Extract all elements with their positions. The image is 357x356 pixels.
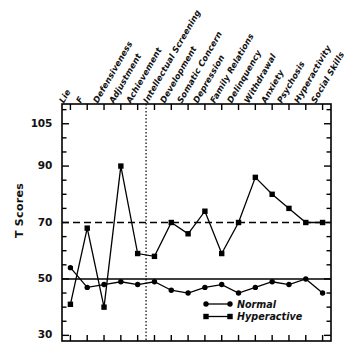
legend: NormalHyperactive	[203, 299, 302, 323]
data-point	[202, 285, 207, 290]
data-point	[236, 290, 241, 295]
chart-figure: LieFDefensivenessAdjustmentAchievementIn…	[0, 0, 357, 356]
data-point	[303, 276, 308, 281]
legend-label: Normal	[237, 299, 277, 310]
data-point	[286, 206, 291, 211]
data-point	[185, 290, 190, 295]
data-point	[135, 251, 140, 256]
data-point	[118, 163, 123, 168]
data-point	[152, 279, 157, 284]
data-point	[185, 231, 190, 236]
data-point	[85, 285, 90, 290]
data-point	[253, 175, 258, 180]
data-point	[118, 279, 123, 284]
data-point	[303, 220, 308, 225]
data-point	[169, 220, 174, 225]
legend-marker	[227, 314, 232, 319]
data-point	[286, 282, 291, 287]
data-point	[269, 279, 274, 284]
data-point	[320, 220, 325, 225]
legend-label: Hyperactive	[237, 311, 303, 322]
data-point	[101, 304, 106, 309]
data-point	[85, 225, 90, 230]
data-point	[202, 209, 207, 214]
legend-marker	[203, 301, 208, 306]
data-point	[219, 251, 224, 256]
data-point	[320, 290, 325, 295]
data-point	[219, 282, 224, 287]
data-point	[269, 192, 274, 197]
data-point	[68, 302, 73, 307]
plot-area: NormalHyperactive	[0, 0, 357, 356]
series-hyperactive	[68, 163, 326, 309]
legend-marker	[203, 314, 208, 319]
legend-marker	[227, 301, 232, 306]
data-point	[236, 220, 241, 225]
data-point	[68, 265, 73, 270]
data-point	[253, 285, 258, 290]
data-point	[152, 254, 157, 259]
data-point	[169, 288, 174, 293]
data-point	[135, 282, 140, 287]
